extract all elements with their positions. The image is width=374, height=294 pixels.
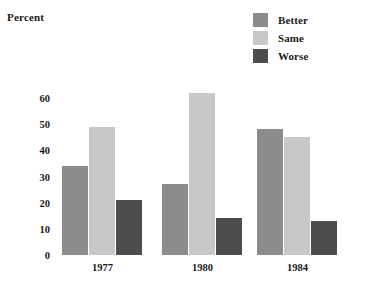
x-tick-label: 1980 [173, 262, 233, 273]
legend-label-worse: Worse [278, 50, 308, 62]
legend-swatch-better [253, 13, 268, 27]
bar-same-1977 [89, 127, 115, 255]
bar-worse-1977 [116, 200, 142, 255]
legend: Better Same Worse [253, 11, 368, 65]
bar-better-1984 [257, 129, 283, 255]
bar-worse-1980 [216, 218, 242, 255]
bar-group [257, 85, 337, 255]
y-axis-title: Percent [7, 11, 44, 23]
bar-better-1980 [162, 184, 188, 255]
bar-worse-1984 [311, 221, 337, 255]
bar-group [62, 85, 142, 255]
bar-same-1984 [284, 137, 310, 255]
legend-item-same: Same [253, 29, 368, 47]
y-tick-label: 0 [20, 250, 50, 261]
legend-swatch-same [253, 31, 268, 45]
y-tick-label: 60 [20, 93, 50, 104]
legend-swatch-worse [253, 49, 268, 63]
x-tick-label: 1977 [73, 262, 133, 273]
y-tick-label: 10 [20, 223, 50, 234]
y-tick-label: 20 [20, 197, 50, 208]
bar-same-1980 [189, 93, 215, 255]
legend-item-better: Better [253, 11, 368, 29]
legend-label-same: Same [278, 32, 304, 44]
y-tick-label: 40 [20, 145, 50, 156]
y-tick-label: 50 [20, 119, 50, 130]
bar-better-1977 [62, 166, 88, 255]
x-tick-label: 1984 [268, 262, 328, 273]
bar-group [162, 85, 242, 255]
bar-chart: Percent Better Same Worse 0102030405060 … [0, 0, 374, 294]
legend-label-better: Better [278, 14, 308, 26]
y-tick-label: 30 [20, 171, 50, 182]
plot-area [57, 85, 357, 255]
legend-item-worse: Worse [253, 47, 368, 65]
